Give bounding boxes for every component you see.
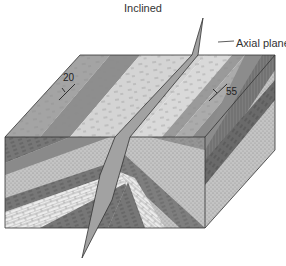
inclined-fold-diagram: Inclined Axial plane 20 55 [0, 0, 286, 266]
diagram-title: Inclined [0, 2, 286, 14]
dip-value-right: 55 [226, 86, 237, 97]
axial-plane-leader [218, 41, 234, 42]
axial-plane-label: Axial plane [236, 37, 286, 49]
dip-value-left: 20 [63, 72, 74, 83]
